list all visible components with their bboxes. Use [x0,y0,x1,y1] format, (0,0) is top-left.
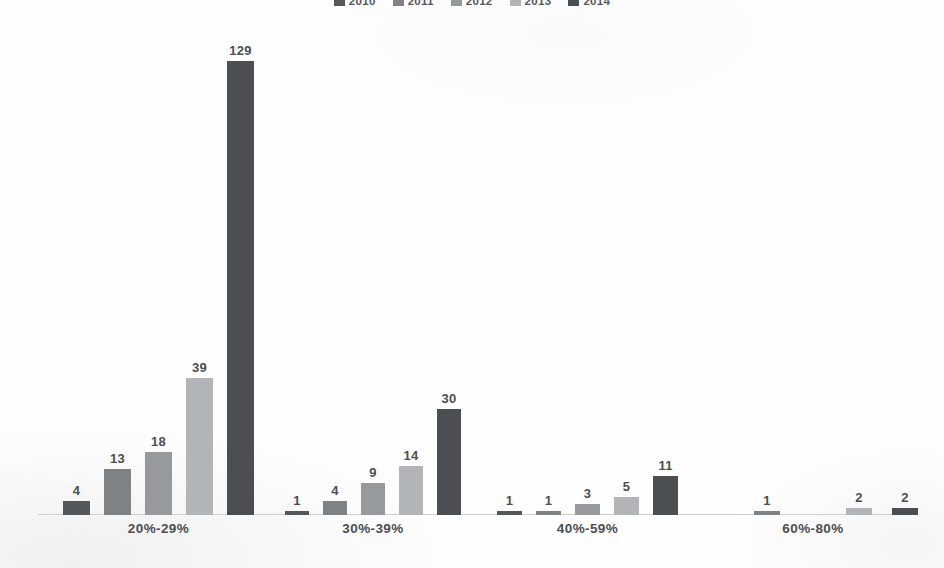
bar-slot: 30 [430,40,468,515]
bar-group-20%-29%: 413183912920%-29% [56,40,261,515]
bar-2013-60%-80% [846,508,872,515]
bar-chart: 20102011201220132014 413183912920%-29%14… [0,0,944,568]
legend-label: 2010 [349,0,376,7]
bar-2011-40%-59% [536,511,561,515]
bar-2011-30%-39% [323,501,347,515]
bar-value-label: 3 [584,487,591,500]
bar-slot: 14 [392,40,430,515]
bar-slot: 9 [354,40,392,515]
bar-2012-40%-59% [575,504,600,515]
legend-item-2012: 2012 [451,0,493,7]
bar-2010-20%-29% [63,501,90,515]
bar-group-30%-39%: 149143030%-39% [278,40,468,515]
legend-item-2013: 2013 [510,0,552,7]
legend-swatch-icon [393,0,404,6]
bar-slot: 3 [568,40,607,515]
bar-slot: 4 [316,40,354,515]
bar-value-label: 2 [901,491,908,504]
bar-2014-60%-80% [892,508,918,515]
bar-group-60%-80%: 12260%-80% [698,40,928,515]
bar-2012-20%-29% [145,452,172,515]
bar-group-bars: 122 [698,40,928,515]
x-axis-label-30%-39%: 30%-39% [278,521,468,536]
bar-slot: 39 [179,40,220,515]
bar-slot [698,40,744,515]
legend-item-2011: 2011 [393,0,434,7]
bar-slot: 2 [836,40,882,515]
bar-slot: 1 [278,40,316,515]
bar-2014-30%-39% [437,409,461,515]
bar-group-bars: 1491430 [278,40,468,515]
bar-2011-60%-80% [754,511,780,515]
plot-area: 413183912920%-29%149143030%-39%11351140%… [38,40,918,515]
bar-2014-40%-59% [653,476,678,515]
bar-value-label: 4 [73,484,80,497]
bar-value-label: 2 [855,491,862,504]
bar-value-label: 18 [151,435,166,448]
bar-2011-20%-29% [104,469,131,515]
bar-value-label: 14 [404,449,419,462]
bar-group-bars: 4131839129 [56,40,261,515]
bar-slot: 2 [882,40,928,515]
bar-2014-20%-29% [227,61,254,515]
bar-slot: 11 [646,40,685,515]
bar-slot: 13 [97,40,138,515]
bar-slot: 5 [607,40,646,515]
bar-slot: 4 [56,40,97,515]
bar-value-label: 11 [658,459,672,472]
bar-value-label: 39 [192,361,207,374]
bar-value-label: 9 [369,466,376,479]
legend-swatch-icon [334,0,345,6]
x-axis-label-20%-29%: 20%-29% [56,521,261,536]
bar-2010-30%-39% [285,511,309,515]
x-axis-label-40%-59%: 40%-59% [490,521,685,536]
legend-label: 2013 [525,0,552,7]
legend-item-2010: 2010 [334,0,376,7]
bar-value-label: 1 [293,494,300,507]
bar-slot: 18 [138,40,179,515]
legend-item-2014: 2014 [568,0,610,7]
bar-2010-40%-59% [497,511,522,515]
bar-slot: 1 [744,40,790,515]
chart-legend: 20102011201220132014 [0,0,944,9]
legend-swatch-icon [510,0,521,6]
bar-2013-30%-39% [399,466,423,515]
legend-swatch-icon [568,0,579,6]
bar-value-label: 5 [623,480,630,493]
x-axis-label-60%-80%: 60%-80% [698,521,928,536]
bar-slot: 1 [490,40,529,515]
legend-swatch-icon [451,0,462,6]
bar-2013-20%-29% [186,378,213,515]
bar-value-label: 129 [229,44,251,57]
bar-value-label: 1 [506,494,513,507]
bar-2013-40%-59% [614,497,639,515]
bar-group-bars: 113511 [490,40,685,515]
bar-value-label: 13 [110,452,125,465]
bar-value-label: 1 [763,494,770,507]
legend-label: 2014 [583,0,610,7]
bar-group-40%-59%: 11351140%-59% [490,40,685,515]
legend-label: 2012 [466,0,493,7]
bar-value-label: 1 [545,494,552,507]
bar-slot [790,40,836,515]
bar-2012-30%-39% [361,483,385,515]
bar-slot: 129 [220,40,261,515]
bar-slot: 1 [529,40,568,515]
bar-value-label: 4 [331,484,338,497]
bar-value-label: 30 [442,392,457,405]
legend-label: 2011 [408,0,434,7]
